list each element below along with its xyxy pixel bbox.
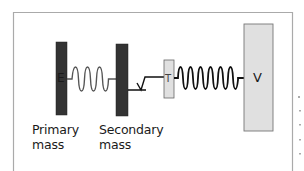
primary-mass-inner-label: E (57, 71, 64, 86)
primary-mass-caption-line1: Primary (32, 122, 79, 137)
secondary-mass-block (116, 44, 128, 116)
secondary-mass-caption: Secondary mass (99, 122, 163, 152)
edge-marks (298, 96, 301, 155)
primary-mass-caption: Primary mass (32, 122, 79, 152)
v-block-label: V (253, 70, 262, 85)
spring-1 (67, 67, 116, 91)
secondary-mass-caption-line2: mass (99, 137, 163, 152)
spring-2 (174, 67, 244, 89)
primary-mass-caption-line2: mass (32, 137, 79, 152)
t-block-label: T (165, 71, 171, 86)
secondary-mass-caption-line1: Secondary (99, 122, 163, 137)
damper-connector (128, 77, 164, 90)
